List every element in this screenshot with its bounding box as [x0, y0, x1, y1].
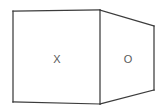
- box-line-drawing: X O: [0, 0, 165, 112]
- side-face-label: O: [124, 53, 133, 65]
- front-face-label: X: [53, 53, 61, 65]
- figure-canvas: X O: [0, 0, 165, 112]
